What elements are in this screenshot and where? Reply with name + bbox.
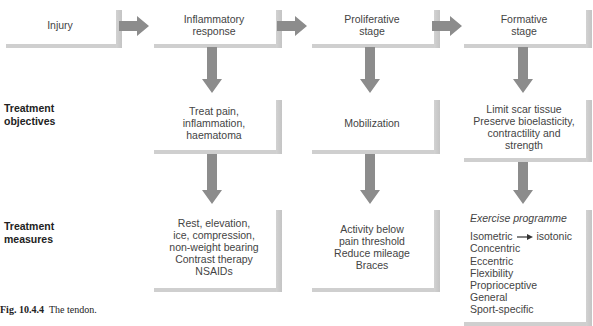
objective-formative-box: Limit scar tissue Preserve bioelasticity… <box>462 96 586 158</box>
figure-number: Fig. 10.4.4 <box>0 304 44 315</box>
stage-inflammatory-box: Inflammatory response <box>152 6 276 44</box>
measure-inflammatory-box: Rest, elevation, ice, compression, non-w… <box>152 206 276 288</box>
exercise-progression: Isometric isotonic <box>470 230 572 242</box>
measure-inflammatory-text: Rest, elevation, ice, compression, non-w… <box>169 217 258 277</box>
exercise-item: General <box>470 291 572 303</box>
arrow-down-icon <box>513 162 533 204</box>
exercise-item: Flexibility <box>470 267 572 279</box>
objective-formative-text: Limit scar tissue Preserve bioelasticity… <box>473 103 574 151</box>
stage-proliferative-box: Proliferative stage <box>310 6 434 44</box>
figure-caption: Fig. 10.4.4 The tendon. <box>0 304 97 315</box>
stage-injury-label: Injury <box>47 19 73 31</box>
row-label-objectives: Treatment objectives <box>4 102 55 127</box>
exercise-item: Sport-specific <box>470 303 572 315</box>
exercise-programme-title: Exercise programme <box>470 212 572 224</box>
arrow-down-icon <box>360 47 380 93</box>
exercise-programme-list: Exercise programme Isometric isotonic Co… <box>470 212 572 316</box>
exercise-item: Concentric <box>470 242 572 254</box>
measure-proliferative-text: Activity below pain threshold Reduce mil… <box>334 223 410 271</box>
exercise-item: Eccentric <box>470 255 572 267</box>
arrow-down-icon <box>360 154 380 204</box>
arrow-right-icon <box>516 233 534 241</box>
row-label-measures: Treatment measures <box>4 220 54 245</box>
arrow-down-icon <box>202 47 222 93</box>
arrow-right-icon <box>119 16 149 36</box>
arrow-right-icon <box>432 16 462 36</box>
measure-proliferative-box: Activity below pain threshold Reduce mil… <box>310 206 434 288</box>
stage-inflammatory-label: Inflammatory response <box>184 13 245 37</box>
figure-caption-text: The tendon. <box>49 304 97 315</box>
arrow-down-icon <box>513 47 533 93</box>
arrow-down-icon <box>202 154 222 204</box>
arrow-right-icon <box>277 16 307 36</box>
objective-proliferative-box: Mobilization <box>310 96 434 150</box>
stage-injury-box: Injury <box>4 6 116 44</box>
objective-proliferative-text: Mobilization <box>344 117 399 129</box>
exercise-item: Proprioceptive <box>470 279 572 291</box>
progression-to: isotonic <box>536 230 572 242</box>
objective-inflammatory-box: Treat pain, inflammation, haematoma <box>152 96 276 150</box>
progression-from: Isometric <box>470 230 513 242</box>
stage-proliferative-label: Proliferative stage <box>344 13 399 37</box>
objective-inflammatory-text: Treat pain, inflammation, haematoma <box>183 105 245 141</box>
stage-formative-label: Formative stage <box>501 13 548 37</box>
stage-formative-box: Formative stage <box>462 6 586 44</box>
